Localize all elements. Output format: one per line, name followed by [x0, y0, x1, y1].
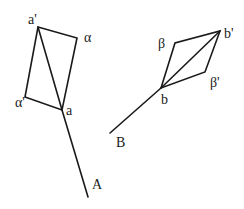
- label-alpha-prime: α': [15, 95, 25, 110]
- label-alpha: α: [84, 30, 92, 45]
- label-beta-prime: β': [210, 75, 220, 90]
- label-B: B: [116, 135, 125, 150]
- label-beta: β: [158, 36, 165, 51]
- quadrilateral-a: [25, 27, 77, 110]
- label-b-prime: b': [224, 26, 234, 41]
- line-b-to-B: [110, 88, 161, 133]
- label-b: b: [161, 92, 168, 107]
- figure-b: b β b' β' B: [110, 26, 234, 150]
- vector-diagram: a' α a α' A b β b' β' B: [0, 0, 244, 209]
- line-a-to-A: [62, 110, 88, 197]
- figure-a: a' α a α' A: [15, 12, 103, 197]
- label-a: a: [66, 103, 73, 118]
- label-A: A: [92, 177, 103, 192]
- label-a-prime: a': [28, 12, 37, 27]
- diagonal-a-prime-to-a: [38, 27, 62, 110]
